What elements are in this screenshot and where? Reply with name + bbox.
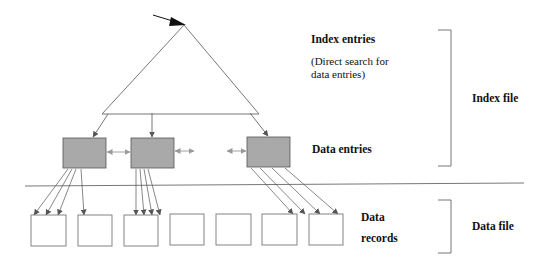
data-record-page (309, 214, 343, 245)
data-entry-pages (63, 137, 290, 168)
index-file-label: Index file (472, 92, 518, 104)
data-file-label: Data file (472, 220, 514, 232)
data-record-page (31, 215, 66, 246)
data-records-label-line1: Data (361, 211, 385, 223)
data-record-page (216, 214, 251, 245)
data-record-page (262, 214, 297, 245)
data-entries-label: Data entries (312, 143, 372, 155)
data-entry-page (247, 137, 290, 167)
file-separator-line (25, 183, 524, 186)
index-entries-note-line1: (Direct search for (311, 54, 389, 68)
index-file-bracket (438, 30, 451, 166)
tree-to-entries-arrows (93, 113, 268, 137)
search-entry-arrow (153, 15, 186, 26)
entries-to-records-arrows (34, 168, 338, 215)
data-records-label-line2: records (361, 232, 398, 244)
diagram-canvas (0, 0, 547, 264)
sibling-links (107, 151, 246, 152)
index-entries-label: Index entries (311, 33, 375, 45)
data-record-pages (31, 214, 343, 246)
data-record-page (124, 215, 158, 246)
data-record-page (170, 214, 204, 245)
index-tree-triangle (102, 25, 259, 114)
index-entries-note-line2: data entries) (311, 67, 365, 81)
data-record-page (78, 215, 112, 246)
data-file-bracket (438, 200, 451, 253)
data-entry-page (131, 138, 174, 168)
index-structure-diagram: Index entries (Direct search for data en… (0, 0, 547, 264)
data-entry-page (63, 138, 106, 168)
